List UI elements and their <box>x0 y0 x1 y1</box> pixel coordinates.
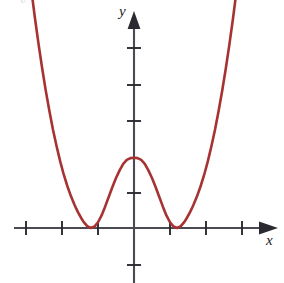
y-axis-label: y <box>119 4 126 19</box>
axes-group <box>14 11 278 283</box>
plot-canvas <box>0 0 284 283</box>
y-axis-arrowhead <box>128 11 141 29</box>
graph-figure: y y x <box>0 0 284 283</box>
x-axis-label: x <box>266 233 273 248</box>
